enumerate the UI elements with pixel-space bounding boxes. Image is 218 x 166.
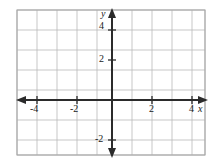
y-axis-label: y: [101, 9, 105, 19]
x-axis-label: x: [198, 104, 202, 114]
coordinate-plane-graph: y x 4 2 -2 -4 -2 2 4: [0, 0, 218, 166]
x-tick-label-4: 4: [189, 104, 194, 114]
y-tick-label-4: 4: [99, 21, 104, 31]
y-tick-label-2: 2: [99, 54, 104, 64]
x-tick-label-2: 2: [149, 104, 154, 114]
x-tick-label-neg2: -2: [70, 104, 78, 114]
y-tick-label-neg2: -2: [95, 134, 103, 144]
x-tick-label-neg4: -4: [30, 104, 38, 114]
graph-canvas: [0, 0, 218, 166]
